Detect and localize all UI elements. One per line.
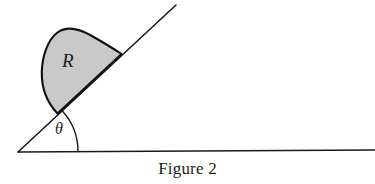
region-R-shape [42, 29, 122, 114]
angle-arc [62, 111, 78, 152]
figure-caption: Figure 2 [0, 159, 375, 179]
region-label-R: R [62, 51, 74, 70]
baseline-line [18, 150, 375, 152]
geometry-diagram [0, 0, 375, 184]
figure-container: R θ Figure 2 [0, 0, 375, 184]
angle-label-theta: θ [55, 121, 63, 137]
